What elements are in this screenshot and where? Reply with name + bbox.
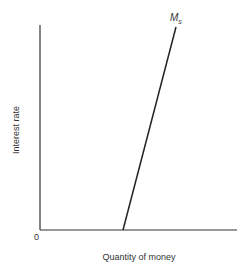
ms-subscript: s [178, 18, 182, 25]
money-supply-curve [123, 27, 176, 230]
y-axis-label: Interest rate [11, 106, 21, 154]
origin-label: 0 [34, 232, 39, 242]
x-axis-label: Quantity of money [102, 252, 175, 262]
money-supply-label: Ms [170, 12, 182, 25]
